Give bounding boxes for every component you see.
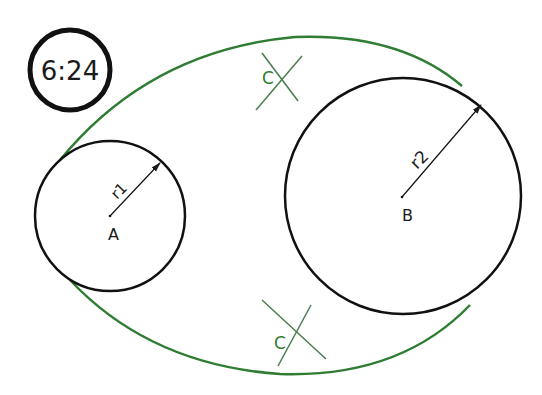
problem-number-badge: 6:24 (30, 30, 110, 110)
bottom-tangent-arc (70, 280, 470, 374)
badge-text: 6:24 (41, 56, 99, 86)
center-a-label: A (108, 225, 119, 244)
top-construction-mark: C (256, 53, 302, 110)
r1-label: r1 (107, 179, 131, 203)
circle-a: r1 A (35, 141, 185, 291)
top-c-label: C (262, 68, 274, 88)
r2-label: r2 (406, 146, 433, 173)
geometry-diagram: 6:24 C C r1 A r2 B (0, 0, 542, 395)
bottom-c-label: C (274, 333, 286, 353)
center-b-label: B (402, 206, 413, 225)
circle-b: r2 B (285, 78, 521, 314)
bottom-construction-mark: C (262, 300, 326, 366)
